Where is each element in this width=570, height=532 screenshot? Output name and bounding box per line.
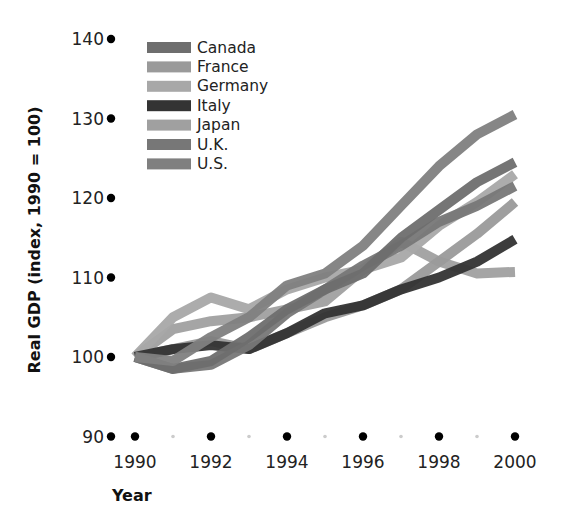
series-layer	[135, 115, 515, 369]
x-tick-label: 2000	[493, 452, 536, 472]
legend-swatch	[147, 158, 191, 169]
series-line-japan	[135, 242, 515, 357]
y-tick-dot-icon	[107, 432, 115, 440]
x-axis: 199019921994199619982000	[113, 432, 536, 471]
x-tick-dot-icon	[131, 432, 139, 440]
legend-label: Japan	[196, 116, 240, 134]
x-tick-dot-icon	[283, 432, 291, 440]
y-tick-label: 90	[82, 427, 104, 447]
legend-swatch	[147, 61, 191, 72]
y-tick-label: 120	[72, 188, 104, 208]
y-tick-label: 140	[72, 29, 104, 49]
legend-label: Canada	[197, 39, 256, 57]
x-tick-dot-icon	[511, 432, 519, 440]
legend-label: U.K.	[197, 136, 228, 154]
x-tick-dot-icon	[207, 432, 215, 440]
x-minor-tick-dot-icon	[475, 435, 479, 439]
x-axis-title: Year	[111, 486, 152, 505]
legend-swatch	[147, 139, 191, 150]
x-tick-label: 1998	[417, 452, 460, 472]
y-tick-dot-icon	[107, 35, 115, 43]
x-tick-dot-icon	[359, 432, 367, 440]
legend-swatch	[147, 42, 191, 53]
legend-label: France	[197, 58, 249, 76]
y-tick-label: 100	[72, 347, 104, 367]
legend-swatch	[147, 120, 191, 131]
y-axis-title: Real GDP (index, 1990 = 100)	[25, 107, 44, 374]
y-tick-dot-icon	[107, 353, 115, 361]
y-tick-label: 130	[72, 109, 104, 129]
y-tick-label: 110	[72, 268, 104, 288]
y-tick-dot-icon	[107, 273, 115, 281]
x-tick-label: 1992	[189, 452, 232, 472]
legend-swatch	[147, 81, 191, 92]
x-minor-tick-dot-icon	[399, 435, 403, 439]
x-tick-dot-icon	[435, 432, 443, 440]
legend-label: U.S.	[197, 155, 228, 173]
x-tick-label: 1990	[113, 452, 156, 472]
x-tick-label: 1994	[265, 452, 308, 472]
legend-swatch	[147, 100, 191, 111]
y-tick-dot-icon	[107, 194, 115, 202]
x-tick-label: 1996	[341, 452, 384, 472]
gdp-line-chart: 90100110120130140 1990199219941996199820…	[0, 0, 570, 532]
legend: CanadaFranceGermanyItalyJapanU.K.U.S.	[147, 39, 268, 173]
legend-label: Italy	[197, 97, 231, 115]
legend-label: Germany	[197, 77, 268, 95]
y-axis: 90100110120130140	[72, 29, 116, 447]
y-tick-dot-icon	[107, 114, 115, 122]
x-minor-tick-dot-icon	[323, 435, 327, 439]
x-minor-tick-dot-icon	[247, 435, 251, 439]
x-minor-tick-dot-icon	[171, 435, 175, 439]
